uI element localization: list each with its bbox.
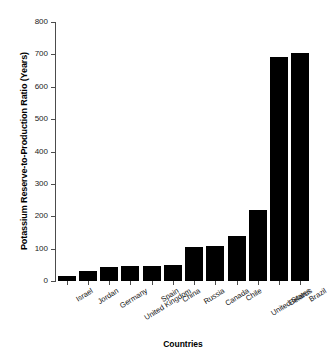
bar-slot [99,22,120,281]
x-tick-label: Russia [203,287,227,306]
x-tick-mark [300,281,301,285]
y-tick-label: 300 [18,180,48,188]
x-tick-label: Germany [119,287,149,310]
bar-slot [226,22,247,281]
bar-slot [247,22,268,281]
bar[interactable] [121,266,139,281]
y-tick-label: 800 [18,18,48,26]
bar-slot [77,22,98,281]
y-tick-label: 700 [18,50,48,58]
x-tick-mark [152,281,153,285]
bar[interactable] [143,266,161,281]
bar-slot [290,22,311,281]
y-tick-label: 600 [18,83,48,91]
y-tick-label: 500 [18,115,48,123]
bar[interactable] [206,246,224,281]
y-tick-label: 0 [18,277,48,285]
bar-slot [205,22,226,281]
x-tick-mark [88,281,89,285]
x-tick-mark [279,281,280,285]
x-tick-label: Israel [74,287,94,304]
y-tick-label: 200 [18,212,48,220]
y-tick-mark [51,281,56,282]
plot-area: 0 100 200 300 400 500 600 700 [55,22,311,281]
y-tick-label: 400 [18,148,48,156]
bar-slot [141,22,162,281]
bar[interactable] [100,267,118,281]
x-axis-title: Countries [55,339,311,349]
bar[interactable] [185,247,203,281]
bar-slot [120,22,141,281]
bar-series [56,22,311,281]
x-tick-mark [194,281,195,285]
bar[interactable] [270,57,288,281]
bar[interactable] [228,236,246,281]
x-tick-mark [258,281,259,285]
bar-chart-figure: Potassium Reserve-to-Production Ratio (Y… [0,0,327,359]
bar-slot [56,22,77,281]
bar-slot [269,22,290,281]
x-tick-mark [109,281,110,285]
bar[interactable] [79,271,97,281]
x-tick-label: Jordan [96,287,120,306]
x-tick-mark [173,281,174,285]
y-tick-label: 100 [18,245,48,253]
bar[interactable] [291,53,309,281]
x-tick-mark [130,281,131,285]
x-tick-mark [67,281,68,285]
bar[interactable] [164,265,182,281]
x-tick-mark [237,281,238,285]
bar[interactable] [249,210,267,281]
x-tick-mark [215,281,216,285]
bar-slot [162,22,183,281]
bar-slot [184,22,205,281]
